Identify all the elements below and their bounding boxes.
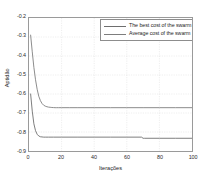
y-tick-label: -0.9 [0, 149, 26, 154]
x-tick-label: 60 [115, 155, 139, 160]
y-tick-label: -0.6 [0, 91, 26, 96]
y-tick-label: -0.2 [0, 14, 26, 19]
x-tick-label: 100 [181, 155, 205, 160]
legend-box: The best cost of the swarmAverage cost o… [100, 19, 193, 41]
legend-entry-label: Average cost of the swarm [129, 31, 190, 36]
y-tick-label: -0.7 [0, 110, 26, 115]
y-tick-label: -0.4 [0, 53, 26, 58]
series-line-0 [31, 94, 192, 138]
x-tick-label: 20 [49, 155, 73, 160]
y-tick-label: -0.3 [0, 33, 26, 38]
y-tick-label: -0.8 [0, 130, 26, 135]
legend-entry-label: The best cost of the swarm [129, 23, 191, 28]
y-axis-title: Aptidão [5, 48, 11, 108]
legend-line-swatch [104, 34, 126, 35]
x-tick-label: 40 [82, 155, 106, 160]
legend-entry: Average cost of the swarm [103, 30, 190, 38]
series-line-1 [31, 35, 192, 108]
x-tick-label: 0 [16, 155, 40, 160]
x-axis-title: Iterações [28, 166, 193, 172]
figure-canvas: -0.2-0.3-0.4-0.5-0.6-0.7-0.8-0.9 0204060… [0, 0, 209, 178]
legend-line-swatch [104, 26, 126, 27]
plot-area: The best cost of the swarmAverage cost o… [28, 17, 193, 152]
x-tick-label: 80 [148, 155, 172, 160]
legend-entry: The best cost of the swarm [103, 22, 190, 30]
